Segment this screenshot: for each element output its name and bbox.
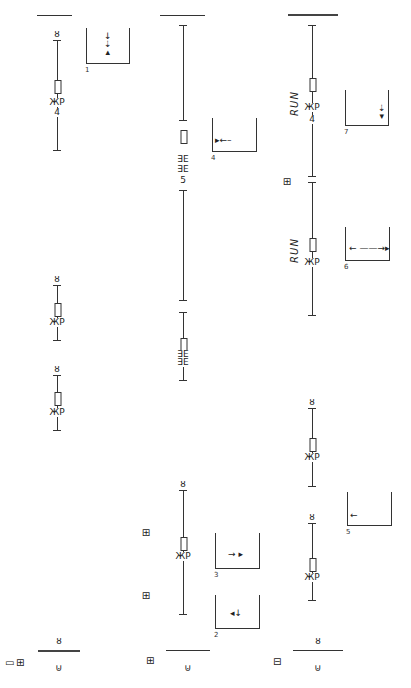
run-label: RUN <box>289 91 300 116</box>
figure-number-label: 3 <box>214 571 218 579</box>
figure-number-label: 1 <box>85 66 89 74</box>
path-arrow-icon: ← ——→▸ <box>349 244 389 253</box>
stage-box-icon: ⊞ <box>146 656 154 665</box>
path-arrow-icon: ◂↓ <box>230 609 242 618</box>
staff-end-tick <box>179 380 187 381</box>
figure-number-label: 5 <box>346 528 350 536</box>
body-part-sign: ЖP <box>304 258 319 267</box>
direction-symbol: ȣ <box>54 365 60 374</box>
pin-icon: ⊍ <box>314 662 321 673</box>
pin-icon: ⊍ <box>55 662 62 673</box>
staff-line <box>57 40 58 150</box>
count-digit: 5 <box>180 176 186 185</box>
tally-mark: ∃Ε <box>177 358 188 367</box>
column-top-bar <box>37 15 72 16</box>
side-box-icon: ⊞ <box>283 177 291 186</box>
body-part-sign: ЖP <box>49 408 64 417</box>
body-part-sign: ЖP <box>49 98 64 107</box>
staff-line <box>183 25 184 120</box>
body-part-sign: ЖP <box>304 103 319 112</box>
staff-end-tick <box>179 120 187 121</box>
hold-sign-icon <box>55 392 62 406</box>
floor-plan-figure-5 <box>347 492 392 526</box>
hold-sign-icon <box>181 130 188 144</box>
hold-sign-icon <box>310 238 317 252</box>
stage-box-icon: ⊞ <box>16 658 24 667</box>
hold-sign-icon <box>310 558 317 572</box>
path-arrow-icon: → ▸ <box>228 550 243 559</box>
staff-line <box>312 25 313 176</box>
staff-end-tick <box>308 176 316 177</box>
direction-symbol: ȣ <box>54 30 60 39</box>
column-bottom-bar <box>293 650 343 651</box>
direction-symbol: ȣ <box>56 637 62 646</box>
path-arrow-icon: ▸←– <box>215 136 232 145</box>
path-arrow-icon: ↓ ⇣ ▴ <box>104 32 112 56</box>
staff-end-tick <box>179 300 187 301</box>
tally-mark: ∃Ε <box>177 165 188 174</box>
direction-symbol: ȣ <box>309 398 315 407</box>
path-arrow-icon: ⇣ ▾ <box>378 104 386 120</box>
column-top-bar <box>160 15 205 16</box>
figure-number-label: 6 <box>344 263 348 271</box>
staff-end-tick <box>308 600 316 601</box>
stage-box-icon: ▭ <box>5 658 14 667</box>
count-digit: 4 <box>309 115 315 124</box>
column-top-bar <box>288 14 338 16</box>
body-part-sign: ЖP <box>175 552 190 561</box>
hold-sign-icon <box>310 78 317 92</box>
direction-symbol: ȣ <box>309 513 315 522</box>
pin-icon: ⊍ <box>184 662 191 673</box>
figure-number-label: 2 <box>214 631 218 639</box>
hold-sign-icon <box>181 537 188 551</box>
staff-end-tick <box>53 340 61 341</box>
column-bottom-bar <box>38 650 80 652</box>
figure-number-label: 4 <box>211 154 215 162</box>
hold-sign-icon <box>310 438 317 452</box>
staff-end-tick <box>179 614 187 615</box>
stage-box-icon: ⊟ <box>273 657 281 666</box>
figure-number-label: 7 <box>344 128 348 136</box>
column-bottom-bar <box>166 650 210 651</box>
body-part-sign: ЖP <box>304 453 319 462</box>
run-label: RUN <box>289 238 300 263</box>
staff-end-tick <box>53 430 61 431</box>
staff-end-tick <box>53 150 61 151</box>
hold-sign-icon <box>55 303 62 317</box>
body-part-sign: ЖP <box>304 573 319 582</box>
body-part-sign: ЖP <box>49 318 64 327</box>
path-arrow-icon: ← <box>350 511 358 520</box>
staff-line <box>183 190 184 300</box>
hold-sign-icon <box>55 80 62 94</box>
direction-symbol: ȣ <box>54 275 60 284</box>
direction-symbol: ȣ <box>180 480 186 489</box>
count-digit: 4 <box>54 108 60 117</box>
tally-mark: ∃Ε <box>177 155 188 164</box>
side-box-icon: ⊞ <box>142 528 150 537</box>
side-box-icon: ⊞ <box>142 591 150 600</box>
staff-end-tick <box>308 486 316 487</box>
direction-symbol: ȣ <box>315 637 321 646</box>
staff-end-tick <box>308 315 316 316</box>
